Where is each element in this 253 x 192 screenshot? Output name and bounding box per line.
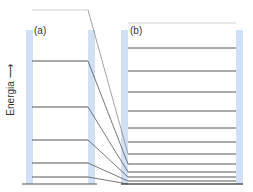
panel-b-label: (b) — [130, 25, 142, 36]
panel-a-label: (a) — [34, 25, 46, 36]
panel-a-right-bar — [88, 30, 95, 184]
panel-b-right-bar — [236, 30, 243, 184]
energy-axis-text: Energia ⟶ — [5, 64, 16, 115]
panel-a-left-bar — [26, 30, 33, 184]
energy-axis-label: Energia ⟶ — [2, 50, 18, 130]
